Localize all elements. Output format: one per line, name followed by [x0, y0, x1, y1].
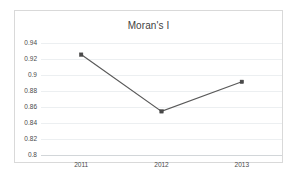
- data-point-marker: [160, 110, 163, 113]
- data-point-marker: [240, 80, 243, 83]
- data-point-marker: [79, 53, 82, 56]
- y-axis-tick-label: 0.8: [28, 152, 37, 159]
- y-axis-tick-label: 0.82: [24, 136, 37, 143]
- x-axis-tick-label: 2012: [154, 162, 168, 169]
- y-axis-tick-label: 0.92: [24, 56, 37, 63]
- x-axis-tick-label: 2013: [235, 162, 249, 169]
- y-axis-tick-label: 0.84: [24, 120, 37, 127]
- y-axis-tick-label: 0.88: [24, 88, 37, 95]
- series-plot: [41, 43, 282, 155]
- series-line-morans-i: [81, 55, 242, 112]
- y-axis-tick-label: 0.9: [28, 72, 37, 79]
- series-markers-group: [79, 53, 243, 113]
- chart-title: Moran's I: [15, 20, 282, 31]
- y-axis-tick-label: 0.94: [24, 40, 37, 47]
- gridline: [41, 155, 282, 156]
- x-axis-tick-label: 2011: [74, 162, 88, 169]
- chart-frame: Moran's I 0.940.920.90.880.860.840.820.8…: [14, 10, 283, 163]
- y-axis-tick-label: 0.86: [24, 104, 37, 111]
- plot-area: 0.940.920.90.880.860.840.820.8 201120122…: [41, 43, 282, 155]
